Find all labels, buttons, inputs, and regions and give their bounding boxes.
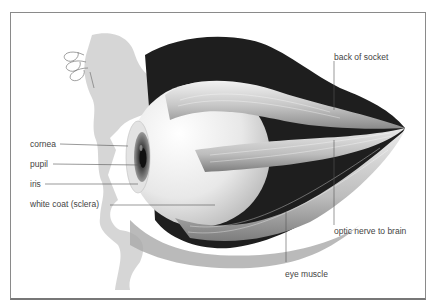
label-pupil: pupil: [30, 159, 48, 169]
label-optic-nerve: optic nerve to brain: [334, 226, 406, 236]
eye-illustration: [0, 0, 433, 306]
label-cornea: cornea: [30, 139, 56, 149]
label-back-of-socket: back of socket: [334, 52, 388, 62]
label-sclera: white coat (sclera): [30, 199, 99, 209]
cornea-leader: [60, 144, 128, 146]
label-iris: iris: [30, 179, 41, 189]
label-eye-muscle: eye muscle: [285, 269, 328, 279]
